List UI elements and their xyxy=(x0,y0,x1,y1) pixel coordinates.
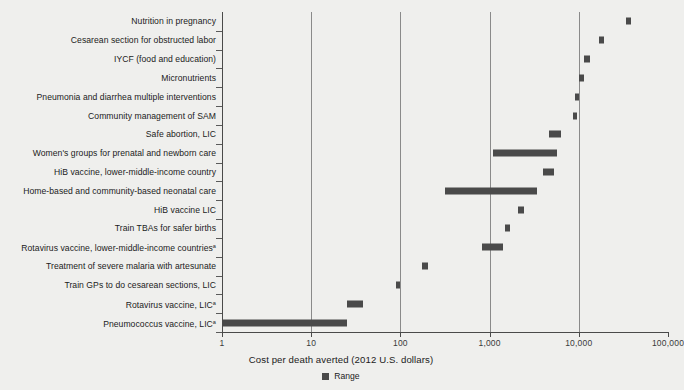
range-bar-2 xyxy=(584,56,590,63)
category-label-15: Rotavirus vaccine, LICa xyxy=(126,297,216,310)
x-tick-1000 xyxy=(490,332,491,337)
range-bar-15 xyxy=(347,300,363,307)
range-bar-10 xyxy=(518,206,523,213)
legend-range-label: Range xyxy=(334,371,359,381)
range-bar-6 xyxy=(549,131,562,138)
category-label-7: Women's groups for prenatal and newborn … xyxy=(33,148,216,158)
category-label-12: Rotavirus vaccine, lower-middle-income c… xyxy=(21,241,216,254)
x-tick-label-10: 10 xyxy=(306,338,316,348)
range-bar-14 xyxy=(396,281,400,288)
range-bar-1 xyxy=(599,37,603,44)
range-bar-12 xyxy=(482,244,503,251)
x-axis-line xyxy=(222,332,668,333)
x-axis-title: Cost per death averted (2012 U.S. dollar… xyxy=(0,354,682,365)
range-bar-16 xyxy=(222,319,347,326)
x-tick-label-10000: 10,000 xyxy=(565,338,592,348)
footnote-marker: a xyxy=(213,299,216,305)
range-bar-8 xyxy=(543,169,554,176)
category-label-3: Micronutrients xyxy=(161,73,216,83)
category-label-1: Cesarean section for obstructed labor xyxy=(71,35,216,45)
category-label-5: Community management of SAM xyxy=(88,111,216,121)
range-bar-5 xyxy=(573,112,577,119)
range-bar-0 xyxy=(626,18,630,25)
x-tick-100 xyxy=(400,332,401,337)
range-bar-4 xyxy=(575,93,579,100)
category-label-6: Safe abortion, LIC xyxy=(146,129,216,139)
category-label-16: Pneumococcus vaccine, LICa xyxy=(103,316,216,329)
range-bar-13 xyxy=(422,263,428,270)
x-tick-label-100: 100 xyxy=(393,338,408,348)
plot-area xyxy=(222,12,668,332)
category-label-9: Home-based and community-based neonatal … xyxy=(23,186,216,196)
range-bar-11 xyxy=(505,225,510,232)
x-tick-label-100000: 100,000 xyxy=(652,338,684,348)
legend-range-swatch xyxy=(322,373,329,380)
category-label-14: Train GPs to do cesarean sections, LIC xyxy=(64,280,216,290)
category-label-13: Treatment of severe malaria with artesun… xyxy=(46,261,216,271)
footnote-marker: a xyxy=(213,318,216,324)
chart-legend: Range xyxy=(0,371,682,381)
x-tick-label-1: 1 xyxy=(220,338,225,348)
x-tick-label-1000: 1,000 xyxy=(478,338,500,348)
x-tick-100000 xyxy=(668,332,669,337)
range-bar-3 xyxy=(579,74,584,81)
x-tick-1 xyxy=(222,332,223,337)
category-label-4: Pneumonia and diarrhea multiple interven… xyxy=(37,92,216,102)
category-label-11: Train TBAs for safer births xyxy=(115,223,216,233)
category-label-0: Nutrition in pregnancy xyxy=(131,16,216,26)
range-bar-7 xyxy=(493,150,557,157)
x-tick-10 xyxy=(311,332,312,337)
footnote-marker: a xyxy=(213,243,216,249)
category-label-8: HiB vaccine, lower-middle-income country xyxy=(54,167,216,177)
category-label-10: HiB vaccine LIC xyxy=(154,205,216,215)
x-tick-10000 xyxy=(579,332,580,337)
range-bar-9 xyxy=(445,187,537,194)
y-axis-line xyxy=(222,12,223,332)
category-label-2: IYCF (food and education) xyxy=(114,54,216,64)
